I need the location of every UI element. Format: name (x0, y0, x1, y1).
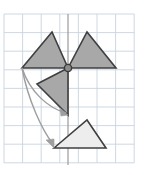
geometry-canvas (0, 0, 147, 175)
rotation-center-point (64, 64, 71, 71)
geometry-figure (0, 0, 147, 175)
